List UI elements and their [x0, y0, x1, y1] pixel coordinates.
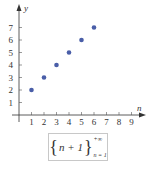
x-axis-ticks: 123456789 — [29, 112, 134, 127]
x-tick-label: 5 — [79, 117, 84, 127]
y-tick-label: 5 — [9, 48, 14, 58]
x-tick-label: 4 — [67, 117, 72, 127]
x-tick-label: 6 — [92, 117, 97, 127]
upper-limit: +∞ — [94, 136, 107, 142]
y-tick-label: 4 — [9, 60, 14, 70]
y-tick-label: 1 — [9, 98, 14, 108]
x-axis-label: n — [137, 103, 142, 113]
y-axis-label: y — [23, 3, 28, 13]
data-point — [79, 38, 84, 43]
x-tick-label: 1 — [29, 117, 34, 127]
x-tick-label: 9 — [129, 117, 134, 127]
data-points — [29, 25, 96, 92]
x-tick-label: 7 — [104, 117, 109, 127]
data-point — [54, 63, 59, 68]
data-point — [29, 88, 34, 93]
sequence-expression: n + 1 — [59, 141, 83, 153]
y-axis-arrow-icon — [17, 4, 22, 11]
x-axis-arrow-icon — [139, 113, 146, 118]
open-brace: { — [49, 138, 58, 156]
y-tick-label: 3 — [9, 73, 14, 83]
x-tick-label: 2 — [42, 117, 47, 127]
lower-limit: n = 1 — [94, 152, 107, 158]
y-tick-label: 6 — [9, 35, 14, 45]
data-point — [42, 75, 47, 80]
y-tick-label: 2 — [9, 85, 14, 95]
y-tick-label: 7 — [9, 23, 14, 33]
x-tick-label: 3 — [54, 117, 59, 127]
sequence-formula-box: { n + 1 } +∞ n = 1 — [48, 133, 108, 161]
data-point — [92, 25, 97, 30]
axes — [12, 4, 146, 122]
sequence-limits: +∞ n = 1 — [94, 136, 107, 158]
data-point — [67, 50, 72, 55]
x-tick-label: 8 — [117, 117, 122, 127]
close-brace: } — [84, 138, 93, 156]
y-axis-ticks: 1234567 — [9, 23, 23, 108]
